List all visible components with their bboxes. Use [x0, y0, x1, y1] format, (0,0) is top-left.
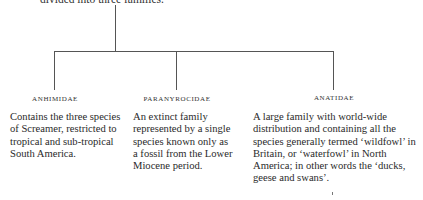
- intro-text: divided into three families.: [40, 0, 164, 5]
- family-name-paranyrocidae: PARANYROCIDAE: [132, 95, 222, 103]
- branch-line-paranyrocidae: [176, 51, 177, 90]
- branch-line-anatidae: [333, 51, 334, 90]
- family-name-anatidae: ANATIDAE: [303, 94, 365, 102]
- tree-horizontal-line: [54, 51, 334, 52]
- tree-stem-line: [115, 5, 116, 52]
- family-desc-anhimidae: Contains the three species of Screamer, …: [10, 111, 124, 160]
- family-desc-anatidae: A large family with world-wide distribut…: [253, 111, 421, 185]
- family-desc-paranyrocidae: An extinct family represented by a singl…: [133, 111, 233, 172]
- branch-line-anhimidae: [54, 51, 55, 90]
- family-name-anhimidae: ANHIMIDAE: [24, 95, 86, 103]
- stray-mark: [332, 192, 333, 195]
